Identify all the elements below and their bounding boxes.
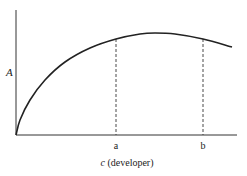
x-tick-b: b (201, 140, 206, 151)
chart: A a b c (developer) (0, 0, 247, 176)
x-axis-label-rest: (developer) (105, 157, 154, 169)
x-tick-a: a (114, 140, 119, 151)
curve-A (16, 33, 232, 135)
x-axis-label: c (developer) (100, 157, 153, 169)
y-axis-label: A (5, 66, 13, 78)
